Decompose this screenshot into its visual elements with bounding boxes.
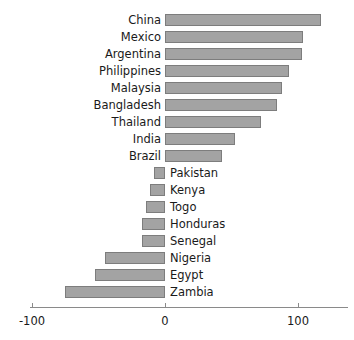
x-axis-tick-label: -100 (0, 314, 72, 328)
bar-row: Togo (0, 199, 354, 216)
x-axis-tick (165, 303, 166, 308)
x-axis-tick (298, 303, 299, 308)
bar-category-label: Kenya (170, 182, 350, 198)
bar-category-label: Togo (170, 199, 350, 215)
bar (165, 150, 222, 162)
bar-row: China (0, 12, 354, 29)
bar (165, 82, 282, 94)
bar (146, 201, 165, 213)
bar (165, 48, 302, 60)
bar-category-label: Honduras (170, 216, 350, 232)
bar-category-label: Argentina (0, 46, 161, 62)
bar-category-label: Egypt (170, 267, 350, 283)
x-axis-tick (32, 303, 33, 308)
bar-row: Kenya (0, 182, 354, 199)
x-axis-line (30, 307, 348, 308)
bar-row: Honduras (0, 216, 354, 233)
bar-row: Mexico (0, 29, 354, 46)
bar-category-label: Pakistan (170, 165, 350, 181)
bar (154, 167, 165, 179)
bar (65, 286, 165, 298)
bar-category-label: Philippines (0, 63, 161, 79)
bar-category-label: Bangladesh (0, 97, 161, 113)
bar-category-label: Thailand (0, 114, 161, 130)
bar (165, 14, 321, 26)
bar-row: Philippines (0, 63, 354, 80)
x-axis-tick-label: 0 (125, 314, 205, 328)
bar-row: Egypt (0, 267, 354, 284)
bar-category-label: Mexico (0, 29, 161, 45)
bar (165, 31, 303, 43)
bar-category-label: China (0, 12, 161, 28)
bar (165, 116, 261, 128)
bar-category-label: India (0, 131, 161, 147)
bar-chart: ChinaMexicoArgentinaPhilippinesMalaysiaB… (0, 0, 354, 340)
bar-row: Zambia (0, 284, 354, 301)
bar (165, 65, 289, 77)
bar-row: Nigeria (0, 250, 354, 267)
bar-row: Malaysia (0, 80, 354, 97)
bar-category-label: Nigeria (170, 250, 350, 266)
bar (142, 235, 165, 247)
bar (150, 184, 165, 196)
bar (105, 252, 165, 264)
bar-row: Brazil (0, 148, 354, 165)
bar-category-label: Brazil (0, 148, 161, 164)
bar-category-label: Zambia (170, 284, 350, 300)
bar (142, 218, 165, 230)
bar-row: Bangladesh (0, 97, 354, 114)
bar-row: India (0, 131, 354, 148)
plot-area: ChinaMexicoArgentinaPhilippinesMalaysiaB… (0, 0, 354, 340)
bar-row: Senegal (0, 233, 354, 250)
x-axis-tick-label: 100 (258, 314, 338, 328)
bar-row: Pakistan (0, 165, 354, 182)
bar (165, 133, 235, 145)
bar (165, 99, 277, 111)
bar (95, 269, 165, 281)
bar-row: Thailand (0, 114, 354, 131)
bar-category-label: Malaysia (0, 80, 161, 96)
bar-row: Argentina (0, 46, 354, 63)
bar-category-label: Senegal (170, 233, 350, 249)
